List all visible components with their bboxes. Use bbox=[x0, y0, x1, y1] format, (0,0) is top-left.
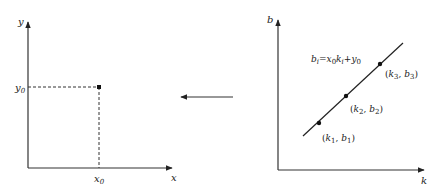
y0-label: y0 bbox=[14, 82, 26, 95]
y-axis-label: y bbox=[17, 16, 24, 27]
point-k1-b1-label: (k1, b1) bbox=[322, 133, 355, 145]
hough-transform-diagram: y x y0 x0 b k bi=x0ki+y0 (k1, b1) (k2, b… bbox=[0, 0, 441, 194]
b-axis-label: b bbox=[267, 14, 273, 25]
point-k3-b3 bbox=[378, 62, 382, 66]
point-x0-y0 bbox=[97, 85, 101, 89]
equation-label: bi=x0ki+y0 bbox=[311, 54, 361, 66]
point-k1-b1 bbox=[317, 121, 321, 125]
point-k3-b3-label: (k3, b3) bbox=[385, 69, 418, 81]
x-axis-label: x bbox=[171, 172, 177, 183]
x0-label: x0 bbox=[94, 173, 105, 186]
point-k2-b2 bbox=[344, 94, 348, 98]
image-space-panel: y x y0 x0 bbox=[14, 16, 177, 186]
parameter-space-panel: b k bi=x0ki+y0 (k1, b1) (k2, b2) (k3, b3… bbox=[267, 14, 427, 186]
point-k2-b2-label: (k2, b2) bbox=[350, 104, 383, 116]
k-axis-label: k bbox=[421, 175, 427, 186]
